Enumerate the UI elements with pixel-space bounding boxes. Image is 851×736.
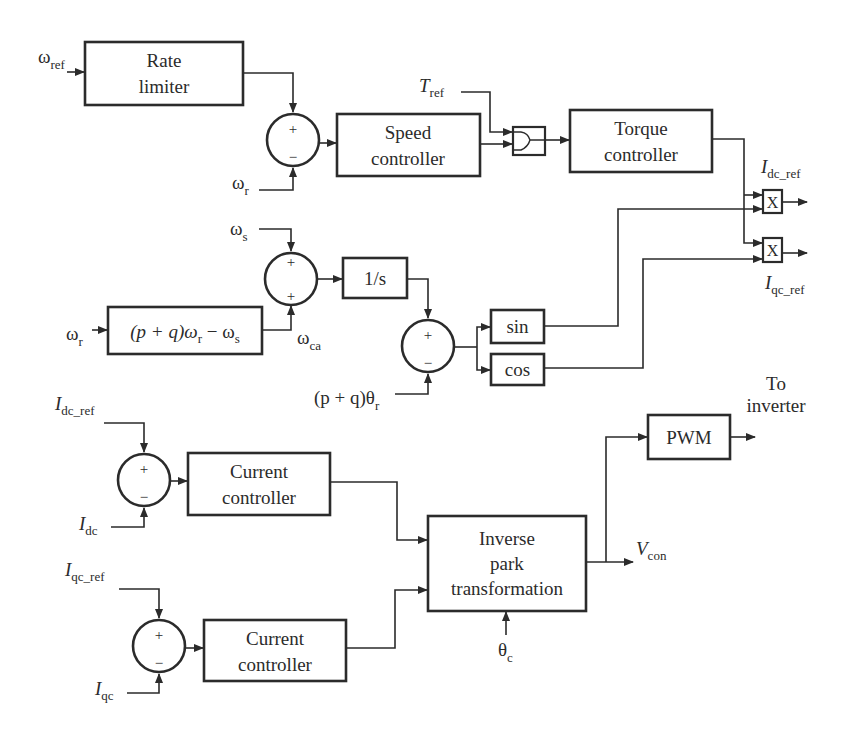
svg-text:sin: sin — [506, 316, 529, 337]
omega-ca-wire — [262, 306, 291, 330]
svg-text:+: + — [424, 327, 432, 343]
idc-ref-input-label: Idc_ref — [54, 393, 95, 418]
svg-text:controller: controller — [604, 144, 679, 165]
t-ref-label: Tref — [419, 75, 445, 100]
svg-text:X: X — [767, 194, 779, 211]
svg-text:PWM: PWM — [666, 427, 712, 448]
theta-r-wire — [395, 374, 428, 394]
svg-text:limiter: limiter — [139, 76, 190, 97]
vd-wire — [330, 482, 427, 540]
iqc-label: Iqc — [94, 678, 114, 703]
idc-wire — [111, 508, 144, 527]
svg-text:−: − — [289, 149, 297, 165]
idc-ref-out-label: Idc_ref — [760, 156, 801, 181]
angle-to-sin-wire — [477, 327, 490, 347]
svg-text:X: X — [767, 242, 779, 259]
svg-text:−: − — [424, 355, 432, 371]
omega-ca-label: ωca — [297, 327, 321, 353]
slip-sum: + + — [265, 253, 317, 305]
selector-switch[interactable] — [513, 127, 545, 155]
svg-text:−: − — [140, 489, 148, 505]
integrator-out-wire — [407, 279, 428, 318]
omega-r-feedback-label: ωr — [232, 172, 250, 198]
idc-ref-input-wire — [104, 423, 144, 452]
svg-text:+: + — [140, 461, 148, 477]
to-inverter-label-2: inverter — [746, 395, 806, 416]
iq-error-sum: + − — [133, 620, 185, 672]
rate-limiter-out-wire — [243, 73, 293, 112]
svg-text:+: + — [155, 627, 163, 643]
sin-block[interactable]: sin — [491, 310, 544, 343]
svg-text:+: + — [289, 121, 297, 137]
cos-block[interactable]: cos — [491, 354, 544, 385]
svg-text:+: + — [287, 288, 295, 304]
omega-s-wire — [259, 229, 291, 251]
svg-text:Current: Current — [246, 628, 305, 649]
svg-text:controller: controller — [238, 654, 313, 675]
slip-calc-block[interactable]: (p + q)ωr − ωs — [108, 307, 262, 354]
theta-c-label: θc — [498, 639, 513, 665]
svg-text:−: − — [155, 655, 163, 671]
torque-controller-block[interactable]: Torque controller — [570, 110, 712, 172]
iqc-ref-out-label: Iqc_ref — [764, 272, 805, 297]
control-block-diagram: ωref Rate limiter + − ωr Speed controlle… — [0, 0, 851, 736]
theta-r-label: (p + q)θr — [314, 387, 380, 413]
rate-limiter-block[interactable]: Rate limiter — [85, 42, 243, 105]
svg-text:Speed: Speed — [385, 122, 432, 143]
svg-text:Torque: Torque — [614, 118, 668, 139]
torque-out-wire-q — [712, 139, 762, 243]
svg-text:Current: Current — [230, 461, 289, 482]
integrator-block[interactable]: 1/s — [343, 258, 407, 298]
id-error-sum: + − — [118, 454, 170, 506]
svg-text:controller: controller — [371, 148, 446, 169]
speed-error-sum: + − — [267, 114, 319, 166]
omega-ref-label: ωref — [38, 46, 66, 72]
multiplier-d-block[interactable]: X — [763, 190, 782, 213]
svg-text:cos: cos — [505, 359, 530, 380]
svg-text:1/s: 1/s — [364, 268, 386, 289]
vq-wire — [346, 590, 427, 648]
angle-to-cos-wire — [477, 347, 490, 370]
svg-text:transformation: transformation — [451, 578, 563, 599]
omega-s-label: ωs — [230, 218, 248, 244]
multiplier-q-block[interactable]: X — [763, 238, 782, 262]
cos-out-wire — [544, 259, 762, 368]
v-con-label: Vcon — [636, 538, 667, 563]
angle-error-sum: + − — [402, 320, 454, 372]
svg-text:Rate: Rate — [147, 50, 182, 71]
svg-text:Inverse: Inverse — [479, 528, 535, 549]
iqc-ref-input-wire — [119, 589, 159, 618]
pwm-block[interactable]: PWM — [648, 415, 730, 459]
current-controller-q-block[interactable]: Current controller — [204, 620, 346, 681]
svg-text:controller: controller — [222, 487, 297, 508]
current-controller-d-block[interactable]: Current controller — [188, 453, 330, 515]
iqc-wire — [127, 674, 159, 693]
svg-text:park: park — [490, 553, 524, 574]
svg-text:+: + — [287, 254, 295, 270]
idc-label: Idc — [78, 513, 98, 538]
omega-r-feedback-wire — [259, 168, 293, 190]
omega-r-input-label: ωr — [66, 323, 84, 349]
speed-controller-block[interactable]: Speed controller — [337, 114, 480, 176]
sin-out-wire — [544, 209, 762, 326]
inverse-park-block[interactable]: Inverse park transformation — [428, 516, 586, 611]
iqc-ref-input-label: Iqc_ref — [64, 559, 105, 584]
to-inverter-label-1: To — [766, 373, 786, 394]
